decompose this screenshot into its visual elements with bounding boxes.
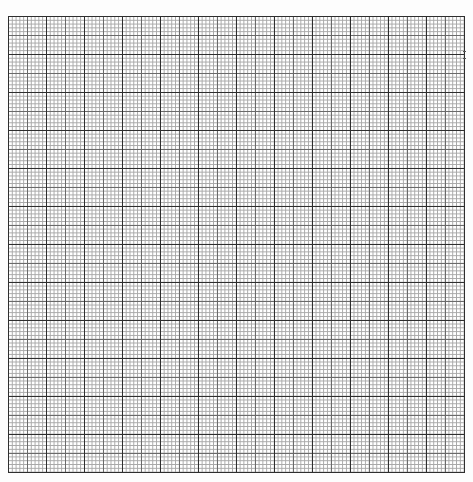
edge-tick-mark: [463, 58, 466, 59]
edge-tick-mark: [463, 51, 466, 52]
graph-paper-grid: [8, 16, 465, 473]
graph-paper-page: [0, 0, 473, 482]
